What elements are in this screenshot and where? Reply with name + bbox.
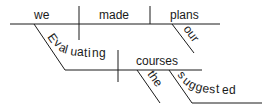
- svg-text:s: s: [209, 82, 216, 96]
- svg-text:a: a: [77, 45, 84, 59]
- sentence-diagram: we made plans our courses the Evaluating…: [0, 0, 271, 110]
- suggested-word-letters: suggested: [175, 68, 236, 97]
- svg-text:t: t: [216, 82, 220, 96]
- svg-text:e: e: [222, 83, 229, 97]
- participle-object-word: courses: [136, 54, 178, 68]
- our-word: our: [181, 22, 203, 44]
- svg-text:g: g: [99, 46, 106, 60]
- the-word: the: [145, 68, 166, 90]
- participle-word-letters: Evaluating: [45, 31, 106, 60]
- verb-word: made: [99, 8, 129, 22]
- svg-text:d: d: [229, 83, 236, 97]
- svg-text:n: n: [92, 46, 99, 60]
- svg-text:i: i: [88, 46, 91, 60]
- object-word: plans: [170, 8, 199, 22]
- subject-word: we: [33, 8, 50, 22]
